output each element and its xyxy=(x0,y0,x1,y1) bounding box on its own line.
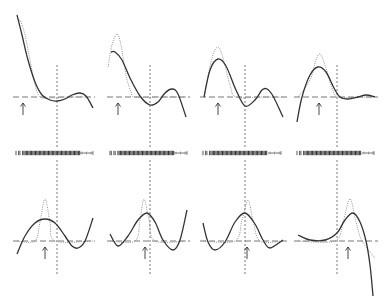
fitted-curve xyxy=(111,51,186,117)
fitted-curve xyxy=(17,15,93,108)
up-arrow-icon xyxy=(216,103,221,115)
small-multiples-chart xyxy=(0,0,389,304)
panel-r1-c4 xyxy=(294,54,378,148)
rug-strip-1 xyxy=(16,151,93,155)
fitted-curve xyxy=(297,67,375,122)
up-arrow-icon xyxy=(116,103,121,115)
up-arrow-icon xyxy=(317,103,322,115)
rug-strip-2 xyxy=(110,151,187,155)
fitted-curve xyxy=(203,213,283,250)
true-curve xyxy=(204,47,283,98)
true-curve xyxy=(108,34,186,97)
true-curve xyxy=(17,199,93,242)
panel-r2-c4 xyxy=(294,160,378,296)
fitted-curve xyxy=(204,59,283,117)
panel-r2-c2 xyxy=(107,160,190,275)
panel-r1-c3 xyxy=(200,47,287,148)
up-arrow-icon xyxy=(21,103,26,115)
rug-strip-4 xyxy=(297,151,374,155)
panel-r1-c2 xyxy=(107,34,190,148)
fitted-curve xyxy=(17,218,93,254)
true-curve xyxy=(203,200,283,243)
true-curve xyxy=(110,199,187,243)
true-curve xyxy=(19,20,90,98)
up-arrow-icon xyxy=(43,247,48,259)
panel-r2-c3 xyxy=(200,160,287,275)
panel-r1-c1 xyxy=(13,15,95,148)
up-arrow-icon xyxy=(346,247,351,259)
fitted-curve xyxy=(298,213,373,296)
panel-r2-c1 xyxy=(13,160,95,275)
true-curve xyxy=(298,199,375,258)
up-arrow-icon xyxy=(143,247,148,259)
rug-strip-3 xyxy=(203,151,281,155)
